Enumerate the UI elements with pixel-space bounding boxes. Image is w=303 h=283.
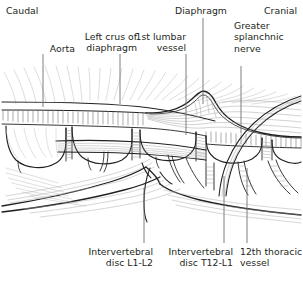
diaphragm-hatch-band (3, 111, 143, 125)
right-crus-leaflet-hatch (206, 166, 288, 186)
upper-fascia-striations (4, 66, 296, 104)
label-cranial: Cranial (229, 5, 297, 16)
label-disc-l1-l2: Intervertebral disc L1-L2 (78, 246, 153, 269)
lower-left-striations (6, 168, 86, 206)
label-disc-t12-l1: Intervertebral disc T12-L1 (158, 246, 233, 269)
label-diaphragm: Diaphragm (175, 5, 227, 16)
intervertebral-disc-t10-t11 (262, 138, 272, 160)
label-12th-thoracic-vessel: 12th thoracic vessel (240, 246, 302, 269)
crus-body-shading (6, 159, 301, 223)
diaphragm-lower-border (2, 110, 146, 113)
intervertebral-disc-l1-l2 (66, 127, 72, 161)
crus-root-notch (142, 163, 172, 222)
label-1st-lumbar-vessel: 1st lumbar vessel (122, 31, 186, 54)
lower-left-vertebra-striations (6, 128, 58, 159)
label-caudal: Caudal (6, 5, 38, 16)
label-greater-splanchnic-nerve: Greater splanchnic nerve (234, 20, 284, 54)
crus-body-outline (2, 167, 301, 215)
